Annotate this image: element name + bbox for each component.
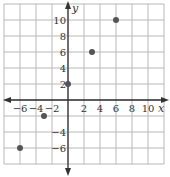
data-point	[17, 145, 23, 151]
y-tick-label: −6	[51, 143, 66, 154]
x-tick-label: −2	[45, 103, 60, 114]
x-tick-label: 8	[129, 103, 135, 114]
y-axis-label: y	[71, 2, 79, 15]
data-point	[41, 113, 47, 119]
y-tick-label: 4	[60, 63, 66, 74]
data-point	[65, 81, 71, 87]
x-tick-label: 4	[97, 103, 103, 114]
grid-lines	[4, 4, 164, 164]
x-axis-label: x	[158, 102, 165, 115]
y-tick-label: 10	[53, 15, 66, 26]
data-point	[113, 17, 119, 23]
x-tick-label: 6	[113, 103, 119, 114]
x-tick-labels: −6−4−2246810	[13, 103, 155, 114]
axes	[3, 1, 169, 176]
x-tick-label: −6	[13, 103, 28, 114]
y-tick-label: 6	[60, 47, 66, 58]
x-tick-label: −4	[29, 103, 44, 114]
coordinate-plane: −6−4−2246810 −6−4246810 x y	[0, 0, 170, 177]
y-tick-label: −4	[51, 127, 66, 138]
y-tick-label: 8	[60, 31, 66, 42]
y-axis-up-arrow-icon	[65, 1, 71, 9]
data-point	[89, 49, 95, 55]
y-axis-down-arrow-icon	[65, 168, 71, 176]
x-tick-label: 2	[81, 103, 87, 114]
x-tick-label: 10	[142, 103, 155, 114]
